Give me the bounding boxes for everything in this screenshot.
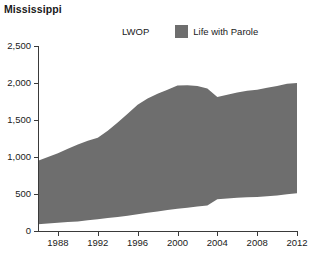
x-axis-tick bbox=[297, 232, 298, 236]
y-axis-tick bbox=[34, 83, 38, 84]
x-axis-tick-label: 2012 bbox=[286, 238, 307, 248]
y-axis-tick bbox=[34, 120, 38, 121]
y-axis-tick bbox=[34, 231, 38, 232]
x-axis-tick bbox=[257, 232, 258, 236]
x-axis-tick-label: 2004 bbox=[207, 238, 228, 248]
chart-legend: LWOP Life with Parole bbox=[104, 25, 258, 38]
y-axis-tick-label: 1,000 bbox=[1, 152, 31, 162]
y-axis-labels: 05001,0001,5002,0002,500 bbox=[0, 0, 31, 255]
legend-label-life-with-parole: Life with Parole bbox=[193, 27, 258, 37]
legend-item-life-with-parole[interactable]: Life with Parole bbox=[175, 25, 258, 38]
legend-swatch-lwop bbox=[104, 25, 117, 38]
x-axis-tick bbox=[98, 232, 99, 236]
y-axis-tick-label: 500 bbox=[1, 189, 31, 199]
x-axis-tick-label: 2000 bbox=[167, 238, 188, 248]
y-axis-tick bbox=[34, 46, 38, 47]
y-axis-tick-label: 2,500 bbox=[1, 41, 31, 51]
legend-swatch-life-with-parole bbox=[175, 25, 188, 38]
y-axis-tick-label: 0 bbox=[1, 226, 31, 236]
x-axis-tick-label: 1996 bbox=[127, 238, 148, 248]
x-axis-tick bbox=[217, 232, 218, 236]
y-axis-tick-label: 2,000 bbox=[1, 78, 31, 88]
y-axis-line bbox=[38, 46, 39, 232]
y-axis-tick-label: 1,500 bbox=[1, 115, 31, 125]
x-axis-line bbox=[38, 231, 298, 232]
x-axis-tick bbox=[178, 232, 179, 236]
y-axis-tick bbox=[34, 157, 38, 158]
x-axis-tick-label: 1988 bbox=[47, 238, 68, 248]
x-axis-tick bbox=[58, 232, 59, 236]
legend-label-lwop: LWOP bbox=[122, 27, 149, 37]
stacked-area-chart bbox=[38, 46, 297, 231]
y-axis-tick bbox=[34, 194, 38, 195]
x-axis-tick bbox=[138, 232, 139, 236]
x-axis-tick-label: 1992 bbox=[87, 238, 108, 248]
legend-item-lwop[interactable]: LWOP bbox=[104, 25, 149, 38]
chart-plot-area bbox=[38, 46, 297, 231]
x-axis-tick-label: 2008 bbox=[247, 238, 268, 248]
